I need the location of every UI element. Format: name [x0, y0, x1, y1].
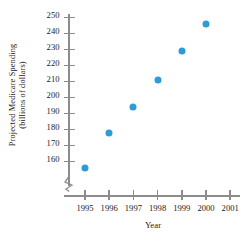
y-axis-tick-label: 220	[47, 58, 60, 68]
x-axis-tick-label: 1999	[173, 203, 190, 213]
y-axis-tick: 250	[64, 17, 75, 19]
y-axis-tick-label: 250	[47, 10, 60, 20]
x-axis-title-label: Year	[87, 220, 161, 230]
y-axis-tick-label: 170	[47, 138, 60, 148]
data-point	[106, 129, 113, 136]
x-axis-tick	[108, 190, 110, 200]
y-axis-tick: 190	[64, 113, 75, 115]
x-axis-tick-label: 1995	[76, 203, 93, 213]
data-point	[203, 20, 210, 27]
x-axis-tick	[157, 190, 159, 200]
x-axis-tick	[205, 190, 207, 200]
medicare-spending-scatter-chart: Projected Medicare Spending (billions of…	[0, 0, 248, 239]
y-axis-tick: 170	[64, 145, 75, 147]
plot-area: 160170180190200210220230240250 199519961…	[68, 14, 240, 192]
axis-break-icon	[63, 176, 75, 192]
y-axis-title-line-2: (billions of dollars)	[18, 61, 28, 129]
x-axis-tick-label: 2000	[197, 203, 214, 213]
data-point	[130, 104, 137, 111]
y-axis-tick-label: 210	[47, 74, 60, 84]
x-axis-tick	[181, 190, 183, 200]
y-axis-tick: 180	[64, 129, 75, 131]
y-axis-tick: 230	[64, 49, 75, 51]
x-axis-title: Year	[0, 220, 248, 230]
y-axis-tick: 220	[64, 65, 75, 67]
y-axis-tick-label: 200	[47, 90, 60, 100]
x-axis-tick-label: 1998	[149, 203, 166, 213]
x-axis-tick	[133, 190, 135, 200]
y-axis-title: Projected Medicare Spending (billions of…	[0, 0, 34, 200]
data-point	[178, 48, 185, 55]
y-axis-tick-label: 240	[47, 26, 60, 36]
y-axis-tick-label: 230	[47, 42, 60, 52]
y-axis-tick-label: 180	[47, 122, 60, 132]
x-axis-tick-label: 2001	[222, 203, 239, 213]
data-point	[82, 164, 89, 171]
y-axis-tick: 240	[64, 33, 75, 35]
y-axis-title-line-1: Projected Medicare Spending	[8, 44, 18, 147]
x-axis-tick-label: 1997	[125, 203, 142, 213]
y-axis-tick: 160	[64, 161, 75, 163]
y-axis-tick: 200	[64, 97, 75, 99]
x-axis-tick	[229, 190, 231, 200]
x-axis-tick	[84, 190, 86, 200]
y-axis-tick-label: 160	[47, 154, 60, 164]
x-axis-tick-label: 1996	[101, 203, 118, 213]
y-axis-tick: 210	[64, 81, 75, 83]
x-axis-line	[64, 195, 240, 197]
y-axis-tick-label: 190	[47, 106, 60, 116]
data-point	[154, 76, 161, 83]
